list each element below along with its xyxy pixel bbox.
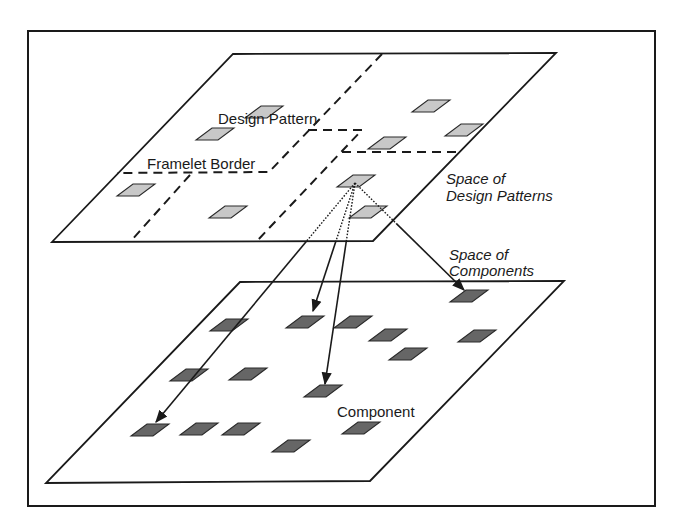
space-of-components-label-1: Space of (449, 246, 510, 263)
design-pattern-space-plane (52, 53, 556, 242)
space-of-design-patterns-label-1: Space of (446, 170, 507, 187)
framelet-diagram: Design Pattern Framelet Border Space of … (0, 0, 685, 529)
space-of-design-patterns-label-2: Design Patterns (446, 187, 553, 204)
design-pattern-label: Design Pattern (218, 110, 317, 127)
component-label: Component (337, 403, 415, 420)
framelet-border-label: Framelet Border (147, 155, 255, 172)
component-space-plane (46, 281, 564, 483)
space-of-components-label-2: Components (449, 262, 535, 279)
